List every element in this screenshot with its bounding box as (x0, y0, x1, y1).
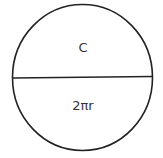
top-label: C (78, 40, 87, 55)
diameter-line (13, 77, 153, 79)
circle-diagram: C 2πr (0, 0, 163, 158)
diagram: C 2πr (0, 0, 163, 158)
bottom-label: 2πr (72, 98, 94, 113)
